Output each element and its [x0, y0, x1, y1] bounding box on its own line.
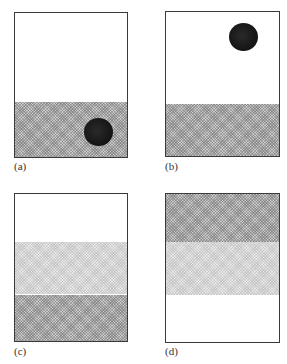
panel-c-label: (c)	[14, 345, 26, 357]
light-layer	[15, 242, 127, 294]
panel-c	[14, 193, 128, 342]
dense-layer	[166, 104, 279, 156]
dense-layer	[166, 194, 279, 242]
panel-b-label: (b)	[165, 160, 178, 172]
panel-a	[14, 12, 128, 158]
ball-floating	[229, 23, 258, 51]
light-layer	[166, 242, 279, 295]
panel-b	[165, 11, 280, 157]
ball-sunk	[84, 118, 113, 146]
panel-a-label: (a)	[14, 160, 26, 172]
panel-d	[165, 193, 280, 343]
panel-d-label: (d)	[165, 345, 178, 357]
dense-layer	[15, 295, 127, 341]
